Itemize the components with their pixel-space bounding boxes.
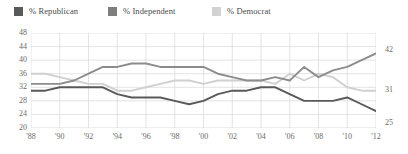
plot-svg [31,33,376,128]
x-tick-label: '98 [170,133,179,141]
legend-swatch-independent [108,7,117,16]
legend-swatch-democrat [212,7,221,16]
x-tick-label: '04 [256,133,265,141]
y-tick-label: 48 [5,29,27,37]
x-tick-label: '06 [285,133,294,141]
y-tick-label: 32 [5,83,27,91]
y-tick-label: 20 [5,124,27,132]
y-tick-label: 28 [5,97,27,105]
y-tick-label: 36 [5,70,27,78]
x-tick-label: '88 [26,133,35,141]
legend-label: % Democrat [227,7,271,16]
legend-item-republican[interactable]: % Republican [14,7,78,16]
x-tick-label: '00 [199,133,208,141]
end-label-independent: 42 [385,46,393,54]
x-tick-label: '08 [314,133,323,141]
end-label-republican: 25 [385,119,393,127]
y-tick-label: 40 [5,56,27,64]
x-tick-label: '90 [55,133,64,141]
gridlines [31,33,376,128]
chart-root: % Republican% Independent% Democrat 4844… [0,0,408,154]
x-tick-label: '96 [141,133,150,141]
legend-item-independent[interactable]: % Independent [108,7,176,16]
x-tick-label: '02 [228,133,237,141]
legend-label: % Republican [29,7,78,16]
end-label-democrat: 31 [385,86,393,94]
plot-area [31,33,376,128]
y-tick-label: 44 [5,43,27,51]
y-tick-label: 24 [5,110,27,118]
chart-legend: % Republican% Independent% Democrat [0,0,408,26]
legend-item-democrat[interactable]: % Democrat [212,7,271,16]
legend-label: % Independent [123,7,176,16]
x-tick-label: '12 [371,133,380,141]
x-tick-label: '92 [84,133,93,141]
x-tick-label: '94 [113,133,122,141]
x-tick-label: '10 [343,133,352,141]
legend-swatch-republican [14,7,23,16]
